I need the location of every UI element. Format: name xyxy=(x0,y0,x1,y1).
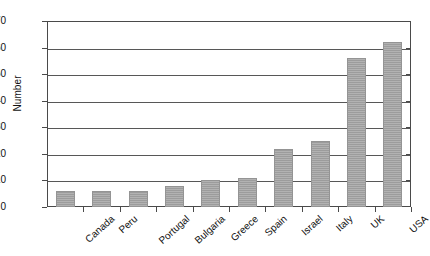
y-tick-label-10: 10 xyxy=(0,175,6,185)
y-axis-title: Number xyxy=(12,59,23,129)
x-label-portugal: Portugal xyxy=(157,213,192,246)
x-tick-mark-3 xyxy=(193,207,194,212)
x-tick-mark-4 xyxy=(229,207,230,212)
x-label-israel: Israel xyxy=(299,213,325,238)
x-label-uk: UK xyxy=(369,213,387,230)
y-tick-label-40: 40 xyxy=(0,96,6,106)
x-tick-mark-6 xyxy=(302,207,303,212)
bar-portugal xyxy=(129,191,148,207)
x-label-peru: Peru xyxy=(116,213,139,235)
x-tick-mark-2 xyxy=(156,207,157,212)
bar-greece xyxy=(201,180,220,207)
y-tick-label-50: 50 xyxy=(0,69,6,79)
bar-israel xyxy=(274,149,293,207)
bar-canada xyxy=(56,191,75,207)
x-tick-mark-7 xyxy=(338,207,339,212)
x-tick-mark-9 xyxy=(411,207,412,212)
y-tick-label-20: 20 xyxy=(0,149,6,159)
bar-uk xyxy=(347,58,366,207)
y-tick-label-70: 70 xyxy=(0,16,6,26)
bar-italy xyxy=(311,141,330,207)
bar-usa xyxy=(383,42,402,207)
x-tick-mark-1 xyxy=(120,207,121,212)
x-tick-mark-5 xyxy=(265,207,266,212)
x-label-greece: Greece xyxy=(228,213,260,243)
x-label-spain: Spain xyxy=(263,213,289,238)
x-label-italy: Italy xyxy=(334,213,355,233)
y-tick-label-30: 30 xyxy=(0,122,6,132)
y-tick-mark-0 xyxy=(42,207,47,208)
x-tick-mark-8 xyxy=(375,207,376,212)
bar-peru xyxy=(92,191,111,207)
y-tick-label-60: 60 xyxy=(0,43,6,53)
y-tick-label-0: 0 xyxy=(0,202,6,212)
x-label-usa: USA xyxy=(407,213,430,235)
bar-bulgaria xyxy=(165,186,184,207)
x-tick-mark-0 xyxy=(83,207,84,212)
bar-spain xyxy=(238,178,257,207)
x-label-canada: Canada xyxy=(83,213,116,245)
bars-layer xyxy=(47,21,411,207)
x-label-bulgaria: Bulgaria xyxy=(192,213,227,246)
